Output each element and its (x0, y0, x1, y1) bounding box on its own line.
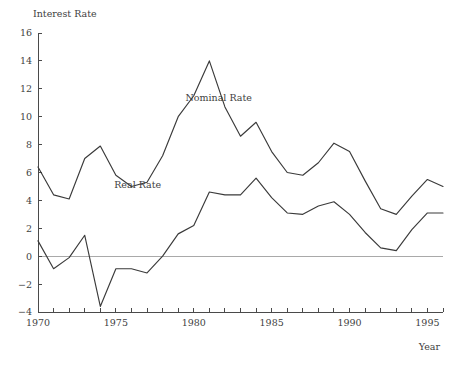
y-tick-label: −4 (18, 306, 32, 317)
x-tick-label: 1975 (104, 317, 128, 328)
x-tick-label: 1980 (182, 317, 206, 328)
y-tick-label: 4 (26, 195, 32, 206)
y-tick-label: 6 (26, 167, 32, 178)
y-tick-label: 16 (20, 27, 32, 38)
y-tick-label: 10 (20, 111, 32, 122)
x-axis-title: Year (418, 341, 441, 352)
series-line-real-rate (38, 178, 443, 306)
y-tick-label: 12 (20, 83, 32, 94)
x-axis-tick-group (38, 308, 443, 312)
x-axis-tick-labels: 197019751980198519901995 (26, 317, 440, 328)
series-label-nominal-rate: Nominal Rate (185, 92, 252, 103)
series-label-real-rate: Real Rate (114, 179, 161, 190)
x-tick-label: 1995 (415, 317, 439, 328)
y-tick-label: −2 (18, 279, 32, 290)
series-line-nominal-rate (38, 61, 443, 214)
y-tick-label: 8 (26, 139, 32, 150)
x-tick-label: 1985 (260, 317, 284, 328)
y-tick-label: 2 (26, 223, 32, 234)
y-tick-label: 0 (26, 251, 32, 262)
y-axis-tick-labels: −4−20246810121416 (18, 27, 32, 317)
series-annotation-labels: Nominal RateReal Rate (114, 92, 252, 189)
x-tick-label: 1970 (26, 317, 50, 328)
y-axis-title: Interest Rate (33, 8, 97, 19)
y-tick-label: 14 (20, 55, 32, 66)
x-tick-label: 1990 (337, 317, 361, 328)
chart-figure: −4−20246810121416 1970197519801985199019… (0, 0, 472, 365)
interest-rate-line-chart: −4−20246810121416 1970197519801985199019… (0, 0, 472, 365)
axes-group (38, 33, 443, 312)
